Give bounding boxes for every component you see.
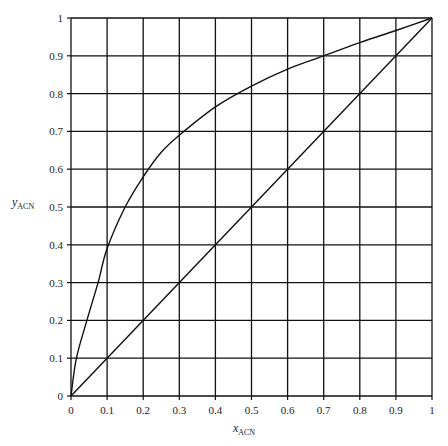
x-tick-label: 0.1 [100,404,114,416]
y-tick-label: 0.3 [49,277,63,289]
vle-chart: 00.10.20.30.40.50.60.70.80.91 00.10.20.3… [0,0,448,446]
y-axis-label: yACN [11,195,34,211]
y-tick-labels: 00.10.20.30.40.50.60.70.80.91 [49,12,63,402]
y-tick-label: 1 [58,12,64,24]
y-tick-label: 0.7 [49,125,63,137]
x-tick-label: 0 [68,404,74,416]
y-tick-label: 0 [58,390,64,402]
y-tick-label: 0.6 [49,163,63,175]
y-tick-label: 0.9 [49,50,63,62]
x-tick-labels: 00.10.20.30.40.50.60.70.80.91 [68,404,435,416]
x-tick-label: 0.5 [245,404,259,416]
x-tick-label: 1 [429,404,435,416]
x-axis-label: xACN [232,421,255,437]
x-tick-label: 0.7 [317,404,331,416]
x-tick-label: 0.2 [136,404,150,416]
y-tick-label: 0.2 [49,314,63,326]
x-tick-label: 0.8 [353,404,367,416]
x-tick-label: 0.9 [389,404,403,416]
y-tick-label: 0.1 [49,352,63,364]
y-tick-label: 0.8 [49,88,63,100]
x-tick-label: 0.6 [281,404,295,416]
x-tick-label: 0.4 [209,404,223,416]
y-tick-label: 0.5 [49,201,63,213]
y-tick-label: 0.4 [49,239,63,251]
x-tick-label: 0.3 [172,404,186,416]
